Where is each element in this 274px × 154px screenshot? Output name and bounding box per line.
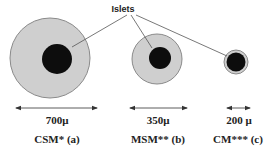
size-label-cm: 200 μ (226, 114, 252, 126)
capsule-name-cm: CM*** (c) (213, 133, 263, 145)
capsule-name-csm: CSM* (a) (34, 133, 80, 145)
islet (149, 47, 171, 69)
diagram-canvas (0, 0, 274, 154)
size-label-csm: 700μ (46, 114, 69, 126)
capsule-name-msm: MSM** (b) (131, 133, 185, 145)
islets-label: Islets (111, 4, 134, 14)
islet (227, 53, 246, 72)
size-label-msm: 350μ (147, 114, 170, 126)
capsule-a (10, 18, 90, 98)
capsule-b (132, 34, 182, 84)
islet (42, 44, 72, 74)
capsule-c (224, 50, 248, 74)
capsule-size-diagram: Islets 700μ 350μ 200 μ CSM* (a) MSM** (b… (0, 0, 274, 154)
